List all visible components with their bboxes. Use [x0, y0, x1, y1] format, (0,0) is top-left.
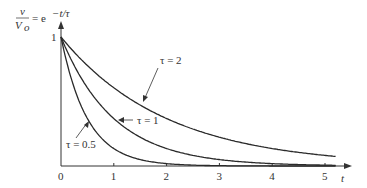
curve-tau-0.5: [61, 37, 336, 166]
ylabel-denominator-sub: o: [24, 21, 30, 33]
curve-tau-1: [61, 37, 336, 165]
x-axis-label: t: [341, 172, 345, 184]
ylabel-rhs: = e: [32, 12, 46, 24]
curves: [61, 37, 336, 166]
ylabel-numerator: v: [20, 5, 25, 17]
xtick-1: 1: [111, 170, 117, 182]
ylabel-denominator: V: [15, 19, 23, 31]
arrow-icon: [143, 95, 148, 102]
arrow-icon: [84, 121, 89, 128]
xtick-4: 4: [269, 170, 275, 182]
ytick-1: 1: [51, 31, 57, 43]
xtick-5: 5: [322, 170, 328, 182]
xtick-0: 0: [58, 170, 64, 182]
xtick-3: 3: [216, 170, 222, 182]
y-axis-arrow-icon: [58, 21, 64, 29]
label-tau-0.5: τ = 0.5: [66, 138, 96, 150]
label-tau-2: τ = 2: [160, 54, 182, 66]
decay-chart: 012345 1 t v V o = e −t/τ τ = 2 τ = 1 τ …: [0, 0, 367, 188]
xtick-2: 2: [164, 170, 170, 182]
label-tau-1: τ = 1: [137, 114, 159, 126]
ylabel-exponent: −t/τ: [52, 7, 71, 19]
x-axis-arrow-icon: [344, 163, 352, 169]
